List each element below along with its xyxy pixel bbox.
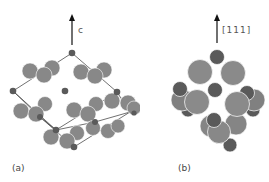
unit-cell-diagram	[0, 0, 140, 182]
panel-a-label: (a)	[12, 163, 25, 173]
panel-b-cluster: [111] (b)	[135, 0, 269, 182]
c-axis-arrow-icon	[69, 14, 75, 45]
c-axis-label: c	[78, 25, 83, 35]
111-axis-label: [111]	[222, 25, 251, 35]
large-atoms	[13, 60, 140, 149]
panel-a-unit-cell: c (a)	[0, 0, 140, 182]
111-axis-arrow-icon	[214, 14, 220, 43]
panel-b-label: (b)	[178, 163, 191, 173]
cluster-atoms	[171, 50, 265, 153]
